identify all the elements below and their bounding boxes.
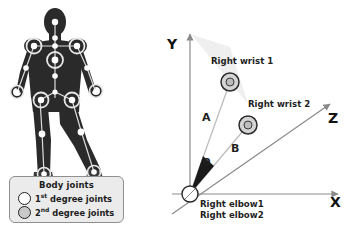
body-joints-legend: Body joints 1st degree joints 2nd degree…	[9, 176, 124, 223]
x-axis-label: X	[330, 194, 341, 210]
origin-elbow-marker	[182, 186, 198, 202]
right-wrist-2-label: Right wrist 2	[248, 99, 310, 109]
right-elbow-2-label: Right elbow2	[200, 210, 264, 220]
legend-item-first-degree-label: 1st degree joints	[35, 194, 112, 204]
hollow-circle-icon	[18, 192, 31, 205]
right-wrist-2-marker	[239, 116, 257, 134]
z-axis-label: Z	[328, 110, 338, 126]
angle-sector-shading	[190, 34, 248, 104]
legend-item-second-degree: 2nd degree joints	[10, 206, 123, 219]
body-silhouette-panel: Body joints 1st degree joints 2nd degree…	[0, 0, 176, 239]
legend-item-second-degree-label: 2nd degree joints	[35, 208, 114, 218]
right-wrist-1-marker	[221, 73, 239, 91]
vector-b-label: B	[231, 142, 239, 155]
right-wrist-1-label: Right wrist 1	[211, 56, 273, 66]
vector-a-label: A	[202, 111, 211, 124]
theta-angle-label: θ	[203, 156, 211, 169]
gray-circle-icon	[18, 206, 31, 219]
y-axis-label: Y	[167, 36, 177, 52]
right-elbow-1-label: Right elbow1	[200, 199, 264, 209]
figure-root: Body joints 1st degree joints 2nd degree…	[0, 0, 351, 239]
legend-item-first-degree: 1st degree joints	[10, 192, 123, 205]
legend-title: Body joints	[10, 180, 123, 190]
